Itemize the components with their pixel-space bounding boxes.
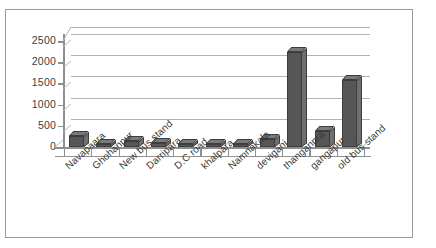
floor-edges — [55, 130, 375, 159]
y-tick-label: 1500 — [32, 76, 56, 88]
x-tick-mark — [64, 148, 65, 157]
x-tick-mark — [119, 148, 120, 157]
y-tick-mark — [58, 126, 64, 128]
y-tick-label: 2000 — [32, 55, 56, 67]
y-tick-label: 500 — [38, 119, 56, 131]
y-tick-label: 1000 — [32, 98, 56, 110]
x-tick-mark — [337, 148, 338, 157]
y-tick-label: 2500 — [32, 34, 56, 46]
x-tick-mark — [255, 148, 256, 157]
y-tick-mark — [58, 83, 64, 85]
x-tick-mark — [200, 148, 201, 157]
x-tick-mark — [282, 148, 283, 157]
x-tick-mark — [146, 148, 147, 157]
x-tick-mark — [228, 148, 229, 157]
x-tick-mark — [309, 148, 310, 157]
x-tick-mark — [91, 148, 92, 157]
x-tick-mark — [173, 148, 174, 157]
y-tick-mark — [58, 41, 64, 43]
y-tick-mark — [58, 105, 64, 107]
y-axis-tick-labels: 05001000150020002500 — [0, 0, 56, 248]
bar-chart: 05001000150020002500 NavapaaraGhohanpurN… — [0, 0, 436, 248]
x-tick-mark — [364, 148, 365, 157]
y-tick-mark — [58, 62, 64, 64]
